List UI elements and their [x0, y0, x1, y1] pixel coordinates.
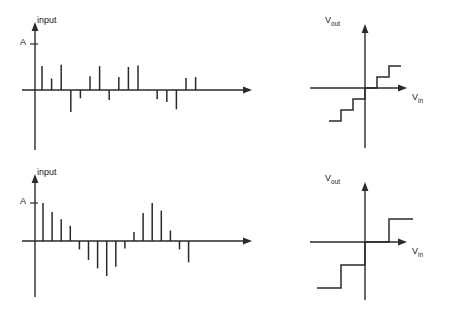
stem-group-top-left [42, 65, 196, 112]
stem-group-bottom-left [43, 203, 189, 276]
y-axis-arrow-top-right [362, 24, 369, 33]
figure-canvas [0, 0, 451, 312]
vout-label-bottom-sub: out [331, 178, 340, 185]
y-axis-arrow-bottom-right [362, 182, 369, 191]
x-axis-arrow-top-left [243, 87, 252, 94]
panel-bottom-right [310, 182, 413, 300]
panel-top-left [22, 22, 252, 150]
vin-label-bottom-sub: in [418, 251, 423, 258]
vin-label-top-sub: in [418, 97, 423, 104]
vin-label-bottom: Vin [412, 247, 423, 258]
vin-label-top: Vin [412, 93, 423, 104]
x-axis-arrow-bottom-left [243, 238, 252, 245]
input-label-bottom: input [37, 168, 57, 177]
vout-label-bottom: Vout [325, 174, 340, 185]
vout-label-top-sub: out [331, 20, 340, 27]
input-label-top: input [37, 16, 57, 25]
amplitude-label-bottom: A [20, 197, 26, 206]
vout-label-top: Vout [325, 16, 340, 27]
amplitude-label-top: A [20, 38, 26, 47]
x-axis-arrow-bottom-right [398, 239, 407, 246]
x-axis-arrow-top-right [398, 85, 407, 92]
panel-top-right [310, 24, 407, 148]
panel-bottom-left [22, 174, 252, 297]
